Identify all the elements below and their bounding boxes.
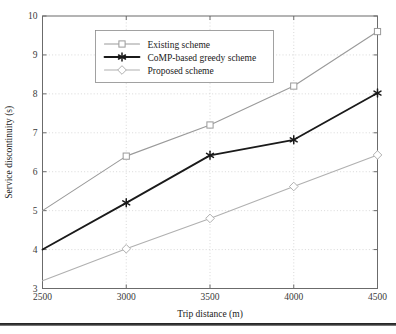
- x-tick-label: 2500: [33, 292, 52, 302]
- series-2: [43, 89, 381, 249]
- chart-legend[interactable]: Existing schemeCoMP-based greedy schemeP…: [96, 31, 274, 83]
- data-point-marker: [374, 28, 380, 34]
- y-tick-label: 10: [28, 11, 38, 21]
- data-point-marker: [207, 122, 213, 128]
- data-point-marker: [373, 151, 382, 160]
- y-tick-label: 4: [33, 245, 38, 255]
- x-axis-title: Trip distance (m): [177, 309, 243, 320]
- data-point-marker: [374, 89, 381, 97]
- legend-label: Existing scheme: [148, 40, 211, 50]
- data-point-marker: [122, 244, 131, 253]
- axis-titles-group: Trip distance (m)Service discontinuity (…: [4, 106, 243, 320]
- series-3: [43, 151, 382, 281]
- data-point-marker: [123, 199, 130, 207]
- y-tick-label: 7: [33, 128, 38, 138]
- data-point-marker: [123, 153, 129, 159]
- x-tick-label: 4500: [368, 292, 387, 302]
- line-chart: 34567891025003000350040004500 Trip dista…: [0, 0, 396, 334]
- data-point-marker: [291, 83, 297, 89]
- figure-container: 34567891025003000350040004500 Trip dista…: [0, 0, 396, 334]
- y-tick-label: 6: [33, 167, 38, 177]
- y-tick-label: 5: [33, 206, 38, 216]
- y-tick-label: 9: [33, 50, 38, 60]
- x-tick-label: 3000: [117, 292, 136, 302]
- legend-label: CoMP-based greedy scheme: [148, 53, 257, 63]
- series-line: [43, 93, 378, 249]
- legend-marker: [119, 41, 125, 47]
- data-point-marker: [206, 214, 215, 223]
- data-point-marker: [289, 182, 298, 191]
- x-tick-label: 3500: [201, 292, 220, 302]
- legend-label: Proposed scheme: [148, 66, 214, 76]
- y-tick-label: 8: [33, 89, 38, 99]
- x-tick-label: 4000: [284, 292, 303, 302]
- footer-rule: [0, 323, 396, 326]
- y-axis-title: Service discontinuity (s): [4, 106, 15, 199]
